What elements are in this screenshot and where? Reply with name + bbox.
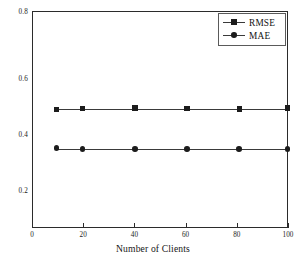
- x-tick-mark: [288, 223, 289, 228]
- x-tick-mark: [134, 223, 135, 228]
- legend-label: RMSE: [246, 18, 275, 28]
- x-tick-mark: [83, 223, 84, 228]
- rmse-data-point: [132, 105, 137, 110]
- y-tick-label: 0.8: [0, 8, 28, 16]
- legend-entry-rmse: RMSE: [222, 16, 282, 29]
- x-tick-mark: [186, 223, 187, 228]
- circle-marker-icon: [222, 30, 246, 41]
- mae-data-point: [132, 146, 138, 152]
- mae-line: [57, 149, 288, 150]
- x-tick-label: 80: [217, 231, 257, 239]
- mae-data-point: [285, 146, 291, 152]
- legend-label: MAE: [246, 31, 270, 41]
- chart-figure: 0.8 0.6 0.4 0.2: [0, 0, 306, 267]
- x-tick-label: 40: [114, 231, 154, 239]
- rmse-data-point: [237, 106, 242, 111]
- chart-legend: RMSE MAE: [218, 13, 286, 46]
- legend-entry-mae: MAE: [222, 29, 282, 42]
- rmse-data-point: [184, 106, 189, 111]
- rmse-line: [57, 109, 288, 110]
- mae-data-point: [54, 145, 60, 151]
- rmse-data-point: [80, 106, 85, 111]
- x-tick-label: 0: [12, 231, 52, 239]
- rmse-data-point: [285, 105, 290, 110]
- x-tick-label: 20: [63, 231, 103, 239]
- mae-data-point: [236, 146, 242, 152]
- y-tick-label: 0.2: [0, 187, 28, 195]
- mae-data-point: [80, 146, 86, 152]
- x-tick-label: 100: [268, 231, 306, 239]
- x-tick-mark: [237, 223, 238, 228]
- y-tick-label: 0.4: [0, 131, 28, 139]
- mae-data-point: [184, 146, 190, 152]
- rmse-data-point: [54, 107, 59, 112]
- x-tick-label: 60: [166, 231, 206, 239]
- x-tick-mark: [32, 223, 33, 228]
- square-marker-icon: [222, 17, 246, 28]
- x-axis-title: Number of Clients: [0, 243, 306, 254]
- y-tick-label: 0.6: [0, 75, 28, 83]
